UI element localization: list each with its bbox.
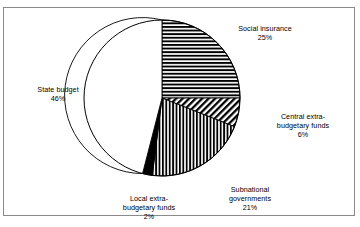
pie-label-subnational-governments: Subnational governments 21% xyxy=(208,185,292,213)
pie-label-central-extra-budgetary-funds: Central extra- budgetary funds 6% xyxy=(262,112,344,140)
pie-label-local-extra-budgetary-funds: Local extra- budgetary funds 2% xyxy=(107,194,191,222)
pie-label-social-insurance: Social insurance 25% xyxy=(219,24,311,42)
chart-frame: Social insurance 25% State budget 46% Ce… xyxy=(3,7,355,216)
pie-label-state-budget: State budget 46% xyxy=(20,85,96,103)
